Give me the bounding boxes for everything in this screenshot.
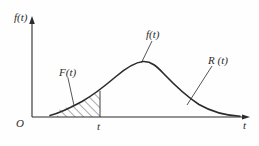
leader-line-f-of-t [142, 41, 153, 63]
curve-label-f-of-t: f(t) [146, 29, 159, 40]
x-tick-label-t: t [97, 121, 100, 132]
y-axis-label: f(t) [14, 12, 27, 23]
leader-line-F-of-t [68, 78, 74, 106]
leader-line-R-of-t [187, 66, 212, 105]
area-label-F-of-t: F(t) [59, 67, 76, 78]
tail-label-R-of-t: R (t) [208, 55, 228, 66]
x-axis-label: t [243, 120, 246, 131]
diagram-svg [0, 0, 259, 146]
figure-canvas: f(t) O t t F(t) f(t) R (t) [0, 0, 259, 146]
origin-label: O [16, 118, 24, 129]
y-axis [29, 16, 35, 117]
